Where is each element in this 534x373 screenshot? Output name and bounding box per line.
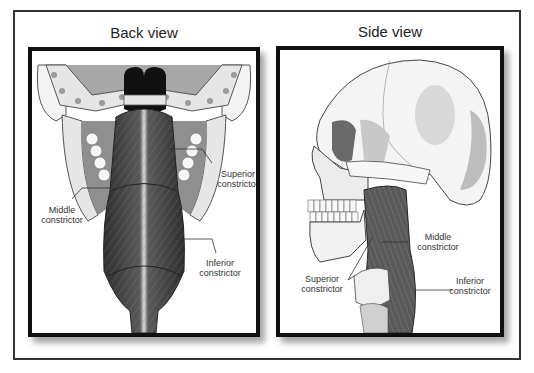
label-line: Inferior: [440, 276, 500, 286]
back-view-panel: Superior constrictor Middle constrictor …: [28, 47, 260, 337]
label-line: Middle: [408, 232, 468, 242]
label-line: Inferior: [190, 258, 250, 268]
label-line: Superior: [292, 274, 352, 284]
label-superior-constrictor: Superior constrictor: [212, 169, 260, 189]
label-line: constrictor: [440, 286, 500, 296]
label-middle-constrictor: Middle constrictor: [408, 232, 468, 252]
label-line: Superior: [212, 169, 260, 179]
side-view-panel: Middle constrictor Superior constrictor …: [276, 46, 504, 337]
side-view-title: Side view: [276, 23, 504, 40]
back-view-title: Back view: [28, 24, 260, 41]
label-superior-constrictor: Superior constrictor: [292, 274, 352, 294]
label-line: Middle: [36, 205, 88, 215]
label-inferior-constrictor: Inferior constrictor: [190, 258, 250, 278]
label-line: constrictor: [292, 284, 352, 294]
label-line: constrictor: [212, 179, 260, 189]
label-line: constrictor: [190, 268, 250, 278]
label-middle-constrictor: Middle constrictor: [36, 205, 88, 225]
label-line: constrictor: [36, 215, 88, 225]
label-line: constrictor: [408, 242, 468, 252]
label-inferior-constrictor: Inferior constrictor: [440, 276, 500, 296]
back-view-illustration: [32, 51, 256, 333]
